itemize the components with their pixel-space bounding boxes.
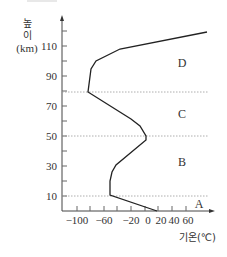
xtick-minus100: −100 xyxy=(66,214,89,226)
layer-label-c: C xyxy=(178,107,186,121)
y-title-line3: (km) xyxy=(16,42,38,55)
ytick-10: 10 xyxy=(46,190,58,202)
y-ticks xyxy=(62,31,67,196)
xtick-minus20: −20 xyxy=(122,214,140,226)
xtick-minus60: −60 xyxy=(95,214,113,226)
ytick-50: 50 xyxy=(46,130,58,142)
xtick-20: 20 xyxy=(156,214,168,226)
xtick-60: 60 xyxy=(183,214,195,226)
y-title-line1: 높 xyxy=(23,18,32,29)
xtick-0: 0 xyxy=(145,214,151,226)
atmosphere-temperature-chart: 110 90 70 50 30 10 높 이 (km) −100 −60 −20… xyxy=(0,0,227,257)
layer-boundaries xyxy=(62,92,208,196)
x-axis-arrow-icon xyxy=(209,209,215,213)
y-axis-arrow-icon xyxy=(60,15,64,21)
ytick-70: 70 xyxy=(46,100,58,112)
temperature-curve xyxy=(88,32,207,211)
x-ticks xyxy=(77,206,186,211)
ytick-90: 90 xyxy=(46,70,58,82)
y-title-line2: 이 xyxy=(23,30,32,41)
xtick-40: 40 xyxy=(169,214,181,226)
ytick-30: 30 xyxy=(46,160,58,172)
x-title: 기온(℃) xyxy=(179,232,216,243)
layer-label-b: B xyxy=(178,155,186,169)
layer-label-a: A xyxy=(195,197,204,211)
ytick-110: 110 xyxy=(41,40,58,52)
cut-off-text-line xyxy=(0,252,227,257)
layer-label-d: D xyxy=(178,56,187,70)
